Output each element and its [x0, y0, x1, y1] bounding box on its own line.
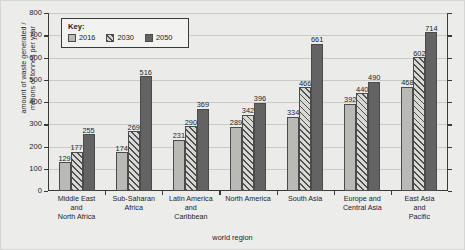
y-axis-tick-label: 200 [16, 142, 42, 151]
bar-group: 334466661 [287, 13, 323, 191]
y-axis-tick-mark [448, 147, 452, 148]
y-axis-tick-label: 0 [16, 186, 42, 195]
legend-item-2016: 2016 [68, 33, 95, 42]
bar-2016: 129 [59, 162, 71, 191]
legend-swatch-2030-icon [106, 34, 114, 42]
bar-value-label: 289 [230, 119, 242, 127]
y-axis-tick-label: 400 [16, 97, 42, 106]
y-axis-tick-label: 800 [16, 8, 42, 17]
bar-value-label: 392 [344, 96, 356, 104]
bar-value-label: 516 [140, 69, 152, 77]
y-axis-tick-mark [448, 191, 452, 192]
legend-label-2030: 2030 [117, 33, 133, 42]
y-axis-tick-mark [44, 191, 48, 192]
bar-value-label: 290 [185, 119, 197, 127]
bar-2016: 174 [116, 152, 128, 191]
bar-2030: 440 [356, 93, 368, 191]
y-axis-tick-mark [448, 13, 452, 14]
bar-value-label: 269 [128, 124, 140, 132]
bar-2016: 334 [287, 117, 299, 191]
x-axis-category-label: North America [219, 194, 276, 203]
bar-value-label: 602 [413, 50, 425, 58]
bar-2050: 661 [311, 44, 323, 191]
bar-2016: 289 [230, 127, 242, 191]
legend-title: Key: [68, 22, 182, 31]
bar-value-label: 466 [299, 80, 311, 88]
x-axis-category-label: Sub-Saharan Africa [105, 194, 162, 212]
bar-2016: 392 [344, 104, 356, 191]
bar-value-label: 396 [254, 95, 266, 103]
y-axis-tick-label: 700 [16, 30, 42, 39]
bar-value-label: 342 [242, 107, 254, 115]
bar-2030: 177 [71, 152, 83, 191]
bar-2050: 255 [83, 134, 95, 191]
chart-frame: amount of waste generated / millions of … [0, 0, 465, 250]
y-axis-tick-mark [448, 35, 452, 36]
x-axis-category-label: Europe and Central Asia [334, 194, 391, 212]
y-axis-tick-mark [448, 124, 452, 125]
bar-2050: 369 [197, 109, 209, 191]
y-axis-tick-label: 100 [16, 164, 42, 173]
bar-group: 289342396 [230, 13, 266, 191]
bar-value-label: 177 [70, 144, 82, 152]
bar-value-label: 129 [58, 155, 70, 163]
legend-item-2050: 2050 [145, 33, 172, 42]
bar-value-label: 255 [82, 127, 94, 135]
chart-legend: Key: 2016 2030 2050 [61, 18, 189, 48]
bar-2050: 714 [425, 32, 437, 191]
y-axis-tick-label: 600 [16, 53, 42, 62]
bar-value-label: 369 [197, 101, 209, 109]
bar-group: 468602714 [401, 13, 437, 191]
bar-2016: 231 [173, 140, 185, 191]
bar-value-label: 334 [287, 109, 299, 117]
x-axis-label: world region [1, 233, 464, 242]
bar-2030: 269 [128, 131, 140, 191]
legend-label-2050: 2050 [156, 33, 172, 42]
bar-value-label: 490 [368, 74, 380, 82]
bar-value-label: 468 [401, 79, 413, 87]
legend-swatch-2016-icon [68, 34, 76, 42]
bar-value-label: 661 [311, 36, 323, 44]
x-axis-category-label: East Asia and Pacific [391, 194, 448, 222]
bar-2050: 490 [368, 82, 380, 191]
bar-2030: 466 [299, 87, 311, 191]
bar-2030: 290 [185, 126, 197, 191]
y-axis-tick-mark [448, 80, 452, 81]
y-axis-tick-mark [448, 102, 452, 103]
bar-2016: 468 [401, 87, 413, 191]
bar-2030: 342 [242, 115, 254, 191]
bar-2050: 396 [254, 103, 266, 191]
bar-value-label: 231 [173, 132, 185, 140]
legend-item-2030: 2030 [106, 33, 133, 42]
bar-2050: 516 [140, 76, 152, 191]
bar-value-label: 440 [356, 86, 368, 94]
bar-value-label: 174 [116, 145, 128, 153]
y-axis-tick-label: 500 [16, 75, 42, 84]
legend-label-2016: 2016 [79, 33, 95, 42]
y-axis-tick-mark [448, 58, 452, 59]
bar-value-label: 714 [425, 25, 437, 33]
bar-group: 392440490 [344, 13, 380, 191]
legend-items: 2016 2030 2050 [68, 33, 182, 42]
y-axis-tick-mark [448, 169, 452, 170]
y-axis-tick-label: 300 [16, 119, 42, 128]
legend-swatch-2050-icon [145, 34, 153, 42]
x-axis-category-label: South Asia [277, 194, 334, 203]
x-axis-category-label: Middle East and North Africa [48, 194, 105, 222]
x-axis-category-label: Latin America and Caribbean [162, 194, 219, 222]
bar-2030: 602 [413, 57, 425, 191]
